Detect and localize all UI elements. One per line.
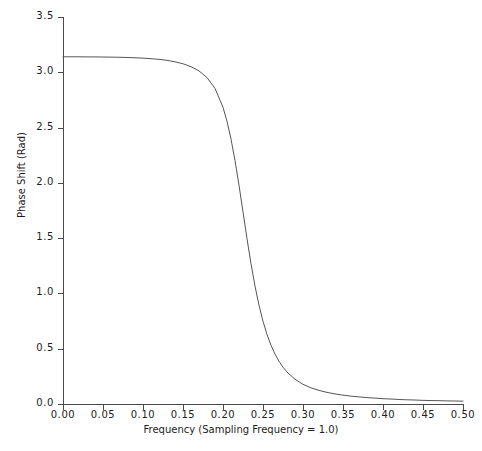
y-tick-label: 0.0 [14, 397, 54, 408]
y-tick-label: 1.0 [14, 286, 54, 297]
x-tick-label: 0.35 [321, 409, 365, 420]
phase-shift-curve [63, 17, 463, 404]
y-axis-label-container: Phase Shift (Rad) [13, 75, 29, 275]
y-axis-label: Phase Shift (Rad) [16, 132, 27, 218]
x-tick-label: 0.10 [121, 409, 165, 420]
x-axis-label: Frequency (Sampling Frequency = 1.0) [0, 424, 482, 435]
x-tick-label: 0.05 [81, 409, 125, 420]
x-tick-label: 0.20 [201, 409, 245, 420]
x-tick-label: 0.50 [441, 409, 482, 420]
x-tick-label: 0.40 [361, 409, 405, 420]
x-tick-label: 0.45 [401, 409, 445, 420]
x-tick-label: 0.25 [241, 409, 285, 420]
y-tick-label: 0.5 [14, 342, 54, 353]
phase-response-chart: 0.00.51.01.52.02.53.03.5 0.000.050.100.1… [0, 0, 482, 451]
x-tick-label: 0.15 [161, 409, 205, 420]
y-tick-label: 3.5 [14, 10, 54, 21]
phase-shift-polyline [63, 57, 463, 401]
plot-area [63, 17, 463, 404]
x-tick-label: 0.00 [41, 409, 85, 420]
x-tick-label: 0.30 [281, 409, 325, 420]
